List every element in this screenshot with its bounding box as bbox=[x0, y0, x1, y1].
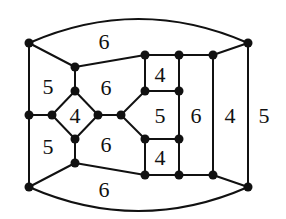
vertex-m2 bbox=[175, 87, 184, 96]
edge-c0-m1 bbox=[121, 91, 145, 115]
face-label: 4 bbox=[155, 62, 166, 87]
vertex-TL bbox=[25, 39, 34, 48]
arc-edge-TL-TR bbox=[29, 19, 248, 43]
face-label: 4 bbox=[70, 103, 81, 128]
face-label: 5 bbox=[43, 74, 54, 99]
face-label: 6 bbox=[101, 75, 112, 100]
vertex-a3 bbox=[71, 135, 80, 144]
edge-t3-TR bbox=[213, 43, 248, 55]
edge-b3-BR bbox=[213, 175, 248, 187]
planar-graph-diagram: 6564456455646 bbox=[0, 0, 286, 219]
edge-a4-b1 bbox=[75, 163, 145, 175]
face-label: 6 bbox=[99, 29, 110, 54]
graph-edges bbox=[29, 19, 248, 211]
edge-TL-a1 bbox=[29, 43, 75, 67]
face-label: 5 bbox=[259, 103, 270, 128]
vertex-dR bbox=[94, 111, 103, 120]
edge-a1-t1 bbox=[75, 55, 145, 67]
vertex-BL bbox=[25, 183, 34, 192]
vertex-dL bbox=[48, 111, 57, 120]
vertex-t3 bbox=[209, 51, 218, 60]
vertex-m1 bbox=[141, 87, 150, 96]
vertex-n1 bbox=[141, 135, 150, 144]
graph-canvas: 6564456455646 bbox=[0, 0, 286, 219]
arc-edge-BL-BR bbox=[29, 187, 248, 211]
vertex-LM bbox=[25, 111, 34, 120]
vertex-a4 bbox=[71, 159, 80, 168]
vertex-n2 bbox=[175, 135, 184, 144]
vertex-a1 bbox=[71, 63, 80, 72]
vertex-a2 bbox=[71, 87, 80, 96]
vertex-TR bbox=[244, 39, 253, 48]
face-label: 4 bbox=[225, 103, 236, 128]
vertex-b2 bbox=[175, 171, 184, 180]
vertex-b1 bbox=[141, 171, 150, 180]
vertex-BR bbox=[244, 183, 253, 192]
vertex-b3 bbox=[209, 171, 218, 180]
face-label: 6 bbox=[101, 132, 112, 157]
face-label: 6 bbox=[99, 177, 110, 202]
face-label: 6 bbox=[191, 103, 202, 128]
face-label: 5 bbox=[43, 134, 54, 159]
face-label: 5 bbox=[155, 103, 166, 128]
vertex-t1 bbox=[141, 51, 150, 60]
face-label: 4 bbox=[155, 145, 166, 170]
edge-c0-n1 bbox=[121, 115, 145, 139]
edge-BL-a4 bbox=[29, 163, 75, 187]
vertex-t2 bbox=[175, 51, 184, 60]
graph-nodes bbox=[25, 39, 253, 192]
vertex-c0 bbox=[117, 111, 126, 120]
